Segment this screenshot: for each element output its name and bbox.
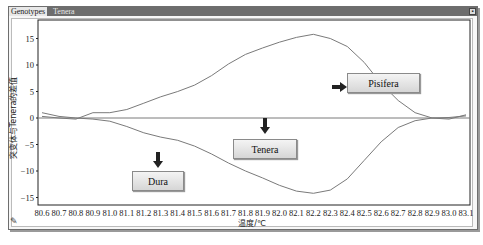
y-tick-label: 10 <box>26 60 35 70</box>
x-axis-title: 温度/℃ <box>238 218 266 228</box>
x-tick-label: 81.8 <box>238 208 253 218</box>
x-tick-label: 81.5 <box>187 208 202 218</box>
x-tick-label: 81.9 <box>255 208 270 218</box>
arrow-tenera-shaft <box>263 118 267 127</box>
x-tick-label: 83.0 <box>442 208 457 218</box>
x-tick-label: 82.2 <box>306 208 321 218</box>
callout-dura: Dura <box>132 171 184 191</box>
y-tick-label: −15 <box>21 193 34 203</box>
arrow-dura-shaft <box>156 152 160 161</box>
x-tick-label: 82.5 <box>357 208 372 218</box>
x-tick-label: 81.7 <box>221 208 236 218</box>
caption-strip <box>0 236 483 245</box>
x-tick-label: 80.7 <box>52 208 67 218</box>
x-tick-label: 82.6 <box>374 208 389 218</box>
x-tick-label: 80.8 <box>68 208 83 218</box>
y-tick-label: 0 <box>30 113 34 123</box>
x-tick-label: 81.1 <box>119 208 134 218</box>
x-tick-label: 82.1 <box>289 208 304 218</box>
arrow-pisifera-shaft <box>332 85 340 89</box>
x-tick-label: 82.3 <box>323 208 338 218</box>
x-tick-label: 82.8 <box>408 208 423 218</box>
y-tick-label: −5 <box>25 140 34 150</box>
x-tick-label: 81.0 <box>102 208 117 218</box>
x-tick-label: 81.3 <box>153 208 168 218</box>
y-tick-label: 5 <box>30 87 34 97</box>
x-tick-label: 81.6 <box>204 208 219 218</box>
melt-curve-chart: 151050−5−10−1580.680.780.880.981.081.181… <box>0 0 483 245</box>
x-tick-label: 83.1 <box>459 208 474 218</box>
x-tick-label: 80.6 <box>35 208 50 218</box>
x-tick-label: 82.4 <box>340 208 356 218</box>
x-tick-label: 82.9 <box>425 208 440 218</box>
tool-icon[interactable]: ✎ <box>10 217 19 226</box>
x-tick-label: 81.4 <box>170 208 186 218</box>
callout-pisifera: Pisifera <box>347 73 420 93</box>
x-tick-label: 80.9 <box>85 208 100 218</box>
y-tick-label: 15 <box>26 34 35 44</box>
y-tick-label: −10 <box>21 166 34 176</box>
x-tick-label: 82.0 <box>272 208 287 218</box>
x-tick-label: 82.7 <box>391 208 406 218</box>
callout-tenera: Tenera <box>233 139 297 159</box>
x-tick-label: 81.2 <box>136 208 151 218</box>
y-axis-title: 突变体与Tenera的差值 <box>8 77 18 160</box>
